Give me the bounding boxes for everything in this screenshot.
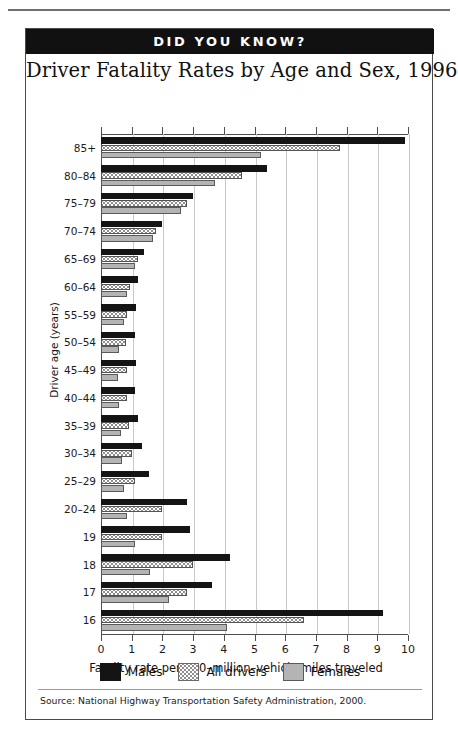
x-tick <box>101 635 102 641</box>
y-category-label: 60–64 <box>26 281 96 293</box>
x-tick-label: 10 <box>401 643 415 656</box>
bar-males <box>101 526 190 532</box>
bar-all-drivers <box>101 617 304 623</box>
legend-item-all: All drivers <box>178 663 266 681</box>
x-tick-top <box>377 127 378 134</box>
x-tick-top <box>162 127 163 134</box>
gridline <box>348 134 349 634</box>
bar-males <box>101 582 212 588</box>
banner-title: DID YOU KNOW? <box>153 34 307 49</box>
x-tick-label: 6 <box>282 643 289 656</box>
x-tick <box>132 635 133 641</box>
bar-males <box>101 249 144 255</box>
y-category-label: 70–74 <box>26 225 96 237</box>
x-tick <box>377 635 378 641</box>
bar-all-drivers <box>101 256 138 262</box>
x-tick <box>316 635 317 641</box>
bar-females <box>101 624 227 630</box>
legend-swatch-all-icon <box>178 663 199 681</box>
x-tick-top <box>101 127 102 134</box>
bar-males <box>101 165 267 171</box>
x-tick-top <box>132 127 133 134</box>
bar-all-drivers <box>101 145 340 151</box>
legend-label-females: Females <box>311 665 361 679</box>
bar-males <box>101 304 136 310</box>
x-tick <box>408 635 409 641</box>
bar-males <box>101 499 187 505</box>
bar-females <box>101 596 169 602</box>
x-tick-label: 8 <box>343 643 350 656</box>
bar-all-drivers <box>101 422 129 428</box>
y-axis-label: Driver age (years) <box>48 270 60 430</box>
x-tick-label: 3 <box>190 643 197 656</box>
x-tick-label: 7 <box>312 643 319 656</box>
did-you-know-card: DID YOU KNOW? Driver Fatality Rates by A… <box>25 28 433 720</box>
bar-all-drivers <box>101 561 193 567</box>
bar-females <box>101 513 127 519</box>
gridline <box>409 134 410 634</box>
bar-females <box>101 346 119 352</box>
bar-all-drivers <box>101 589 187 595</box>
did-you-know-banner: DID YOU KNOW? <box>26 29 434 54</box>
y-category-label: 50–54 <box>26 336 96 348</box>
y-category-label: 45–49 <box>26 364 96 376</box>
y-category-label: 19 <box>26 531 96 543</box>
y-category-label: 17 <box>26 586 96 598</box>
gridline <box>256 134 257 634</box>
chart-title: Driver Fatality Rates by Age and Sex, 19… <box>26 59 434 82</box>
legend-swatch-males-icon <box>100 663 121 681</box>
gridline <box>286 134 287 634</box>
gridline <box>317 134 318 634</box>
bar-all-drivers <box>101 172 242 178</box>
y-category-label: 85+ <box>26 142 96 154</box>
y-category-label: 18 <box>26 559 96 571</box>
bar-all-drivers <box>101 478 135 484</box>
legend-swatch-females-icon <box>283 663 304 681</box>
bar-males <box>101 193 193 199</box>
x-tick-label: 0 <box>98 643 105 656</box>
legend-label-males: Males <box>128 665 163 679</box>
legend-label-all: All drivers <box>206 665 266 679</box>
x-tick-label: 5 <box>251 643 258 656</box>
y-category-label: 40–44 <box>26 392 96 404</box>
y-category-label: 55–59 <box>26 309 96 321</box>
y-category-label: 16 <box>26 614 96 626</box>
bar-males <box>101 276 138 282</box>
source-note: Source: National Highway Transportation … <box>40 695 366 706</box>
x-tick <box>347 635 348 641</box>
bar-females <box>101 263 135 269</box>
x-tick-top <box>408 127 409 134</box>
bar-females <box>101 569 150 575</box>
bar-females <box>101 235 153 241</box>
bar-all-drivers <box>101 450 132 456</box>
bar-males <box>101 360 136 366</box>
bar-all-drivers <box>101 311 127 317</box>
bar-males <box>101 471 149 477</box>
legend-item-males: Males <box>100 663 163 681</box>
x-tick-top <box>347 127 348 134</box>
bar-males <box>101 610 383 616</box>
bar-males <box>101 554 230 560</box>
x-tick <box>162 635 163 641</box>
x-tick <box>193 635 194 641</box>
bar-females <box>101 319 124 325</box>
bar-all-drivers <box>101 228 156 234</box>
legend-item-females: Females <box>283 663 361 681</box>
bar-all-drivers <box>101 200 187 206</box>
bar-all-drivers <box>101 284 130 290</box>
chart-legend: MalesAll driversFemales <box>26 663 434 681</box>
y-category-label: 65–69 <box>26 253 96 265</box>
x-tick <box>255 635 256 641</box>
x-tick-top <box>255 127 256 134</box>
y-category-label: 30–34 <box>26 447 96 459</box>
bar-females <box>101 291 127 297</box>
bar-females <box>101 180 215 186</box>
bar-all-drivers <box>101 339 126 345</box>
source-divider <box>38 689 422 690</box>
bar-females <box>101 430 121 436</box>
bar-males <box>101 332 135 338</box>
bar-all-drivers <box>101 367 127 373</box>
gridline <box>378 134 379 634</box>
bar-females <box>101 402 119 408</box>
chart-plot: Driver age (years) 012345678910 85+80–84… <box>26 99 434 659</box>
